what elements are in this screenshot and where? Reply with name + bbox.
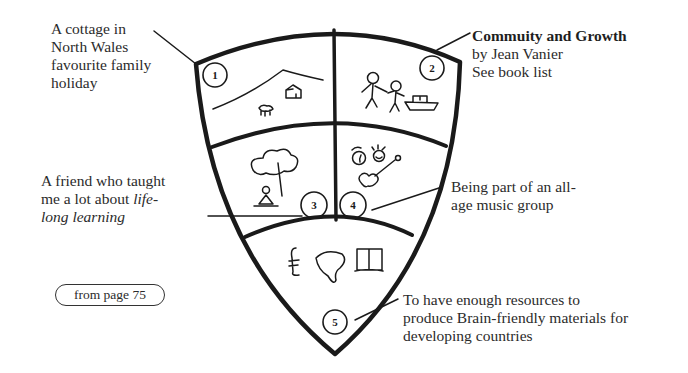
leader-line-4 bbox=[372, 187, 442, 210]
leader-line-5 bbox=[355, 299, 398, 320]
caption-4: Being part of an all- age music group bbox=[451, 178, 576, 214]
book-title: Commuity and Growth bbox=[472, 27, 627, 45]
caption-2: Commuity and Growth by Jean Vanier See b… bbox=[472, 27, 627, 81]
badge-2: 2 bbox=[429, 62, 435, 74]
page-reference-badge: from page 75 bbox=[55, 284, 165, 306]
divider-lower bbox=[245, 216, 412, 237]
caption-1: A cottage in North Wales favourite famil… bbox=[51, 20, 151, 92]
mountain-cottage-sheep-icon bbox=[213, 70, 323, 116]
divider-vertical bbox=[334, 30, 336, 220]
pound-map-book-icon bbox=[289, 248, 383, 282]
tree-figure-icon bbox=[251, 149, 297, 206]
badge-1: 1 bbox=[212, 69, 218, 81]
leader-line-2 bbox=[437, 33, 470, 50]
faces-guitar-icon bbox=[352, 145, 401, 187]
badge-3: 3 bbox=[311, 199, 317, 211]
divider-upper bbox=[212, 123, 446, 147]
caption-5: To have enough resources to produce Brai… bbox=[403, 291, 628, 345]
caption-3: A friend who taught me a lot about life-… bbox=[41, 172, 165, 226]
badge-4: 4 bbox=[350, 199, 356, 211]
leader-line-1 bbox=[154, 31, 196, 64]
badge-5: 5 bbox=[332, 316, 338, 328]
